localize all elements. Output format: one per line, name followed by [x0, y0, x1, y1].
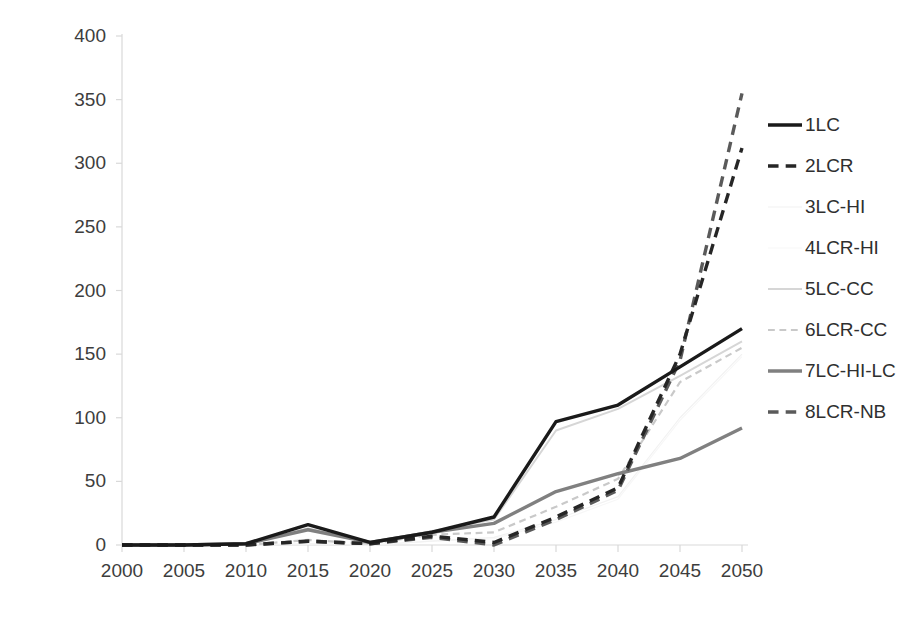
legend-swatch-icon-2lcr	[768, 159, 802, 173]
legend-label: 4LCR-HI	[805, 237, 879, 259]
series-line-3lc-hi	[122, 354, 742, 545]
series-line-7lc-hi-lc	[122, 428, 742, 545]
x-axis-tick-2010: 2010	[225, 560, 267, 582]
legend-swatch-icon-4lcr-hi	[768, 241, 802, 255]
x-axis-tick-2040: 2040	[597, 560, 639, 582]
legend-item-1lc[interactable]: 1LC	[768, 104, 918, 145]
legend-item-5lc-cc[interactable]: 5LC-CC	[768, 268, 918, 309]
legend-swatch-icon-3lc-hi	[768, 200, 802, 214]
x-axis-tick-2000: 2000	[101, 560, 143, 582]
x-axis-tick-2025: 2025	[411, 560, 453, 582]
series-line-6lcr-cc	[122, 348, 742, 545]
legend-item-3lc-hi[interactable]: 3LC-HI	[768, 186, 918, 227]
series-line-1lc	[122, 329, 742, 545]
x-axis-tick-2035: 2035	[535, 560, 577, 582]
x-axis-tick-2045: 2045	[659, 560, 701, 582]
legend-item-7lc-hi-lc[interactable]: 7LC-HI-LC	[768, 350, 918, 391]
legend-label: 7LC-HI-LC	[805, 360, 896, 382]
legend-item-4lcr-hi[interactable]: 4LCR-HI	[768, 227, 918, 268]
x-axis-tick-2005: 2005	[163, 560, 205, 582]
x-axis-tick-labels: 2000200520102015202020252030203520402045…	[0, 560, 918, 590]
legend-swatch-icon-8lcr-nb	[768, 405, 802, 419]
legend-item-6lcr-cc[interactable]: 6LCR-CC	[768, 309, 918, 350]
legend-swatch-icon-6lcr-cc	[768, 323, 802, 337]
legend-label: 1LC	[805, 114, 840, 136]
legend-swatch-icon-7lc-hi-lc	[768, 364, 802, 378]
legend-label: 6LCR-CC	[805, 319, 887, 341]
series-line-5lc-cc	[122, 341, 742, 545]
chart-legend: 1LC2LCR3LC-HI4LCR-HI5LC-CC6LCR-CC7LC-HI-…	[768, 104, 918, 432]
x-axis-tick-2030: 2030	[473, 560, 515, 582]
legend-swatch-icon-1lc	[768, 118, 802, 132]
legend-label: 3LC-HI	[805, 196, 865, 218]
x-axis-tick-2050: 2050	[721, 560, 763, 582]
x-axis-tick-2015: 2015	[287, 560, 329, 582]
series-line-8lcr-nb	[122, 93, 742, 545]
x-axis-tick-2020: 2020	[349, 560, 391, 582]
legend-label: 8LCR-NB	[805, 401, 886, 423]
line-chart: (2000)£/tCO2 050100150200250300350400 20…	[0, 0, 918, 623]
legend-label: 5LC-CC	[805, 278, 874, 300]
legend-label: 2LCR	[805, 155, 854, 177]
legend-item-8lcr-nb[interactable]: 8LCR-NB	[768, 391, 918, 432]
legend-swatch-icon-5lc-cc	[768, 282, 802, 296]
legend-item-2lcr[interactable]: 2LCR	[768, 145, 918, 186]
series-line-2lcr	[122, 148, 742, 545]
